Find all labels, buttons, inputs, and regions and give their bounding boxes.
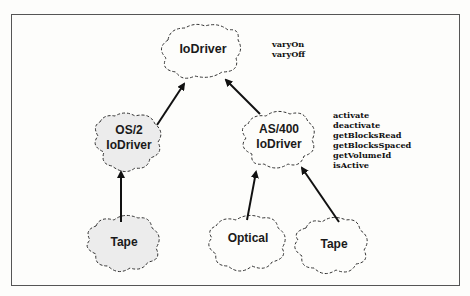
- node-iodriver-label: IoDriver: [170, 42, 236, 57]
- edge-os2-to-iodriver: [157, 84, 184, 125]
- node-as400-line2: IoDriver: [246, 137, 312, 152]
- as400-methods: activate deactivate getBlocksRead getBlo…: [333, 110, 411, 170]
- node-os2-label: OS/2 IoDriver: [96, 123, 162, 153]
- node-os2-line1: OS/2: [96, 123, 162, 138]
- node-as400-line1: AS/400: [246, 122, 312, 137]
- method-getvolumeid: getVolumeId: [333, 150, 411, 160]
- method-activate: activate: [333, 110, 411, 120]
- edge-as400-to-iodriver: [226, 80, 260, 114]
- method-getblocksspaced: getBlocksSpaced: [333, 140, 411, 150]
- node-tape-as400-label: Tape: [304, 237, 364, 252]
- method-varyon: varyOn: [272, 39, 305, 49]
- node-as400-label: AS/400 IoDriver: [246, 122, 312, 152]
- node-tape-os2-label: Tape: [94, 235, 154, 250]
- method-isactive: isActive: [333, 160, 411, 170]
- method-getblocksread: getBlocksRead: [333, 130, 411, 140]
- method-varyoff: varyOff: [272, 49, 305, 59]
- method-deactivate: deactivate: [333, 120, 411, 130]
- edge-tape-to-as400: [302, 168, 339, 222]
- iodriver-methods: varyOn varyOff: [272, 39, 305, 59]
- node-os2-line2: IoDriver: [96, 138, 162, 153]
- edge-optical-to-as400: [247, 172, 256, 220]
- node-optical-label: Optical: [215, 231, 281, 246]
